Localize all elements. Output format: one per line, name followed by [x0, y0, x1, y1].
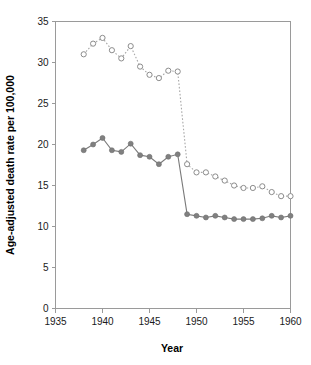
series-line-filled-circle-series: [84, 138, 291, 219]
data-point: [175, 152, 180, 157]
y-tick-label: 5: [43, 262, 49, 273]
data-point: [109, 48, 114, 53]
y-tick-label: 25: [37, 98, 49, 109]
data-point: [166, 154, 171, 159]
data-point: [260, 184, 265, 189]
y-tick-label: 0: [43, 303, 49, 314]
data-point: [109, 148, 114, 153]
data-point: [138, 64, 143, 69]
plot-border: [56, 22, 291, 309]
axis-lines: [56, 22, 291, 309]
x-tick-label: 1935: [44, 316, 67, 327]
data-point: [213, 174, 218, 179]
data-point: [185, 162, 190, 167]
data-point: [279, 215, 284, 220]
y-axis-title: Age-adjusted death rate per 100,000: [4, 75, 16, 255]
x-tick-label: 1940: [91, 316, 114, 327]
data-point: [100, 35, 105, 40]
axes-group: [56, 22, 291, 309]
y-tick-label: 30: [37, 57, 49, 68]
data-point: [119, 149, 124, 154]
data-point: [260, 216, 265, 221]
data-point: [203, 170, 208, 175]
data-point: [175, 69, 180, 74]
data-point: [213, 213, 218, 218]
x-tick-label: 1960: [279, 316, 302, 327]
data-point: [250, 185, 255, 190]
data-point: [241, 217, 246, 222]
data-point: [241, 185, 246, 190]
data-point: [91, 142, 96, 147]
data-point: [194, 170, 199, 175]
data-point: [156, 75, 161, 80]
data-series-group: [81, 35, 293, 221]
data-point: [279, 194, 284, 199]
line-chart: 05101520253035 193519401945195019551960 …: [0, 0, 311, 365]
data-point: [147, 154, 152, 159]
data-point: [288, 213, 293, 218]
data-point: [250, 217, 255, 222]
data-point: [119, 56, 124, 61]
data-point: [269, 213, 274, 218]
y-tick-label: 10: [37, 221, 49, 232]
data-point: [128, 44, 133, 49]
data-point: [232, 217, 237, 222]
data-point: [147, 72, 152, 77]
x-tick-label: 1955: [232, 316, 255, 327]
x-axis-ticks: 193519401945195019551960: [44, 309, 302, 327]
data-point: [128, 141, 133, 146]
data-point: [203, 215, 208, 220]
x-tick-label: 1945: [138, 316, 161, 327]
data-point: [138, 153, 143, 158]
data-point: [222, 215, 227, 220]
data-point: [194, 213, 199, 218]
y-tick-label: 15: [37, 180, 49, 191]
data-point: [288, 194, 293, 199]
data-point: [166, 68, 171, 73]
data-point: [232, 183, 237, 188]
x-axis-title: Year: [161, 342, 183, 354]
series-line-open-circle-series: [84, 38, 291, 196]
data-point: [81, 148, 86, 153]
y-tick-label: 35: [37, 16, 49, 27]
data-point: [100, 135, 105, 140]
y-tick-label: 20: [37, 139, 49, 150]
data-point: [185, 212, 190, 217]
y-axis-ticks: 05101520253035: [37, 16, 55, 314]
data-point: [269, 189, 274, 194]
data-point: [222, 178, 227, 183]
data-point: [91, 41, 96, 46]
x-tick-label: 1950: [185, 316, 208, 327]
chart-container: 05101520253035 193519401945195019551960 …: [0, 0, 311, 365]
data-point: [81, 52, 86, 57]
data-point: [156, 162, 161, 167]
